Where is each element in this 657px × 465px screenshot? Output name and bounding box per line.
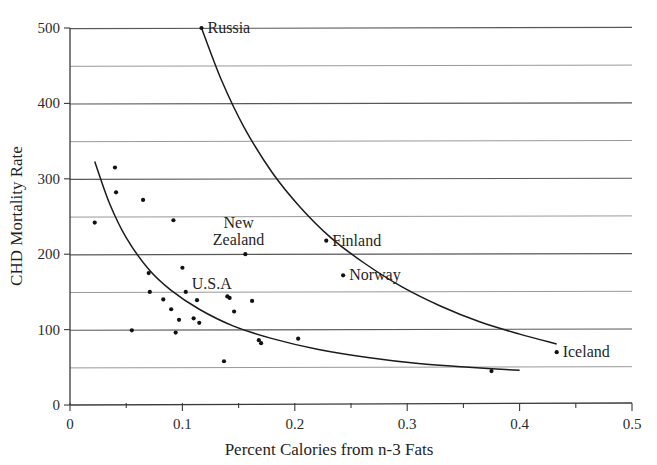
- data-point: [222, 359, 226, 363]
- data-point: [174, 331, 178, 335]
- annotation-norway: Norway: [349, 266, 401, 284]
- tick-labels-group: 010020030040050000.10.20.30.40.5: [38, 20, 642, 432]
- y-tick-label-400: 400: [38, 95, 61, 111]
- data-point: [130, 328, 134, 332]
- annotation-finland: Finland: [332, 232, 381, 249]
- x-tick-label-0.4: 0.4: [510, 416, 529, 432]
- data-point: [192, 316, 196, 320]
- gridlines-group: [70, 27, 632, 368]
- gridline-y-450: [70, 65, 632, 66]
- data-point: [114, 190, 118, 194]
- x-tick-label-0.1: 0.1: [173, 416, 192, 432]
- gridline-y-300: [70, 178, 632, 179]
- data-point: [228, 296, 232, 300]
- chart-container: RussiaNewZealandFinlandNorwayU.S.AIcelan…: [0, 0, 657, 465]
- data-point: [161, 297, 165, 301]
- data-point: [195, 298, 199, 302]
- data-point-russia: [199, 26, 203, 30]
- data-point: [489, 369, 493, 373]
- data-point: [177, 318, 181, 322]
- gridline-y-500: [70, 27, 632, 28]
- gridline-y-350: [70, 141, 632, 142]
- data-point: [148, 290, 152, 294]
- y-axis-title: CHD Mortality Rate: [7, 146, 26, 286]
- upper-fitted-curve: [202, 28, 557, 344]
- chd-mortality-scatter-plot: RussiaNewZealandFinlandNorwayU.S.AIcelan…: [0, 0, 657, 465]
- gridline-y-150: [70, 291, 632, 292]
- x-tick-label-0.2: 0.2: [285, 416, 304, 432]
- y-tick-label-100: 100: [38, 322, 61, 338]
- y-tick-label-300: 300: [38, 171, 61, 187]
- data-point-u-s-a: [184, 290, 188, 294]
- annotation-iceland: Iceland: [563, 343, 610, 360]
- data-point: [141, 198, 145, 202]
- data-point: [169, 307, 173, 311]
- data-point: [147, 271, 151, 275]
- y-tick-label-200: 200: [38, 246, 61, 262]
- data-point-iceland: [555, 350, 559, 354]
- data-point: [93, 220, 97, 224]
- data-point: [171, 218, 175, 222]
- y-tick-label-500: 500: [38, 20, 61, 36]
- x-tick-label-0.5: 0.5: [623, 416, 642, 432]
- data-point: [197, 321, 201, 325]
- fitted-curves-group: [95, 28, 557, 370]
- gridline-y-100: [70, 329, 632, 330]
- gridline-y-250: [70, 216, 632, 217]
- lower-fitted-curve: [95, 161, 520, 370]
- data-point-new-zealand: [243, 252, 247, 256]
- x-tick-label-0: 0: [66, 416, 74, 432]
- data-point-norway: [341, 273, 345, 277]
- x-axis-title: Percent Calories from n-3 Fats: [225, 440, 434, 459]
- data-point: [232, 309, 236, 313]
- annotation-zealand: Zealand: [213, 231, 265, 248]
- gridline-y-50: [70, 367, 632, 368]
- gridline-y-400: [70, 103, 632, 104]
- x-tick-label-0.3: 0.3: [398, 416, 417, 432]
- data-point: [296, 337, 300, 341]
- point-annotations-group: RussiaNewZealandFinlandNorwayU.S.AIcelan…: [192, 19, 610, 360]
- annotation-russia: Russia: [208, 19, 251, 36]
- data-point: [113, 165, 117, 169]
- data-point: [250, 299, 254, 303]
- annotation-u-s-a: U.S.A: [192, 275, 232, 292]
- y-tick-label-0: 0: [53, 397, 61, 413]
- tickmarks-group: [64, 28, 632, 411]
- data-points-group: [93, 26, 559, 373]
- annotation-new: New: [223, 214, 254, 231]
- data-point: [259, 341, 263, 345]
- data-point: [180, 266, 184, 270]
- data-point-finland: [324, 239, 328, 243]
